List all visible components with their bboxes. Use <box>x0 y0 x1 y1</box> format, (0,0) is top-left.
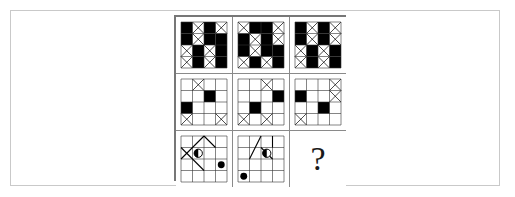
matrix-grid: ? <box>174 15 346 181</box>
cell-figure-bottom-left <box>176 131 232 187</box>
cell-figure-bottom-center <box>233 131 289 187</box>
matrix-top-left <box>176 17 233 74</box>
cell-figure-top-center <box>233 17 289 73</box>
matrix-answer-cell[interactable]: ? <box>290 131 346 187</box>
matrix-top-center <box>233 17 290 74</box>
cell-figure-middle-left <box>176 74 232 130</box>
matrix-top-right <box>290 17 346 74</box>
question-mark: ? <box>310 142 325 176</box>
matrix-bottom-left <box>176 131 233 187</box>
cell-figure-top-left <box>176 17 232 73</box>
cell-figure-middle-center <box>233 74 289 130</box>
cell-figure-middle-right <box>290 74 346 130</box>
matrix-middle-center <box>233 74 290 131</box>
matrix-middle-right <box>290 74 346 131</box>
puzzle-page: ? <box>0 0 515 197</box>
cell-figure-top-right <box>290 17 346 73</box>
matrix-bottom-center <box>233 131 290 187</box>
matrix-middle-left <box>176 74 233 131</box>
